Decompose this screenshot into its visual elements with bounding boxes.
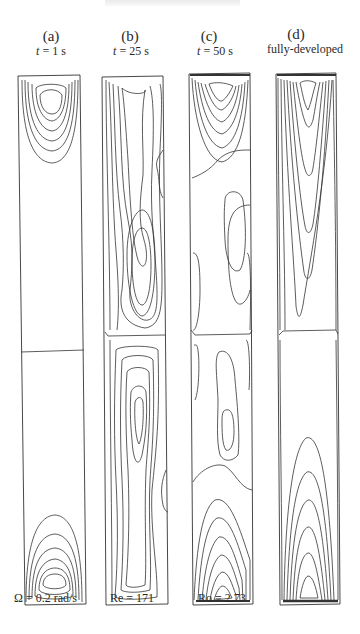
- param-rossby: Ro = 2.73: [198, 591, 246, 606]
- param-reynolds: Re = 171: [110, 591, 154, 606]
- param-omega: Ω = 0.2 rad/s: [14, 591, 77, 606]
- contour-figure: [0, 0, 360, 634]
- panel-d-contours: [276, 73, 340, 605]
- panel-b-contours: [102, 76, 168, 605]
- panel-a-contours: [18, 75, 86, 605]
- panel-c-contours: [189, 73, 253, 605]
